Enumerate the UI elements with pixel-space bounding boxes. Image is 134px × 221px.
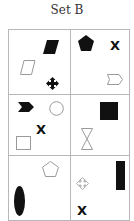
black-chevron-arrow-icon	[18, 102, 34, 112]
cell-r3c1	[9, 156, 70, 221]
black-pentagon-icon	[78, 35, 94, 51]
white-parallelogram-icon	[20, 60, 36, 75]
x-mark-label: X	[36, 123, 46, 136]
cell-r2c1: X	[9, 95, 70, 155]
black-ellipse-icon	[14, 186, 25, 216]
black-square-icon	[100, 102, 118, 120]
white-tag-pentagon-icon	[107, 74, 123, 85]
white-hourglass-icon	[81, 128, 93, 150]
white-square-icon	[16, 136, 31, 150]
white-four-way-arrow-icon	[76, 177, 89, 190]
cell-r3c2: X	[71, 156, 131, 221]
set-title: Set B	[0, 3, 134, 17]
black-parallelogram-icon	[43, 40, 59, 54]
black-four-way-arrow-icon	[46, 77, 59, 90]
black-rectangle-icon	[116, 161, 125, 190]
x-mark-label: X	[110, 39, 120, 52]
shape-grid: X X	[8, 29, 130, 221]
white-circle-icon	[49, 101, 64, 116]
cell-r1c1	[9, 30, 70, 94]
x-mark-label: X	[77, 204, 87, 217]
cell-r1c2: X	[71, 30, 131, 94]
cell-r2c2	[71, 95, 131, 155]
white-pentagon-icon	[42, 161, 59, 177]
